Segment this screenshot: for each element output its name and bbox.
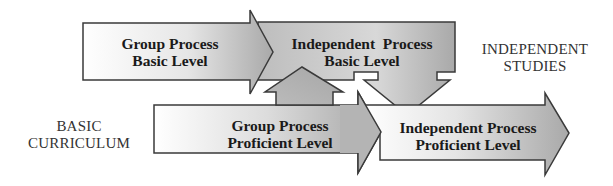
- side-label-basic-curriculum-line2: CURRICULUM: [4, 135, 154, 152]
- node-ip-proficient-line1: Independent Process: [388, 119, 548, 136]
- diagram-canvas: [0, 0, 613, 186]
- node-ip-basic: Independent Process Basic Level: [282, 35, 442, 69]
- node-ip-proficient: Independent Process Proficient Level: [388, 119, 548, 153]
- node-ip-proficient-line2: Proficient Level: [388, 136, 548, 153]
- node-ip-basic-line1: Independent Process: [282, 35, 442, 52]
- node-gp-basic-line2: Basic Level: [100, 52, 240, 69]
- side-label-independent-studies-line2: STUDIES: [465, 58, 605, 75]
- node-gp-basic: Group Process Basic Level: [100, 35, 240, 69]
- node-ip-basic-line2: Basic Level: [282, 52, 442, 69]
- side-label-independent-studies-line1: INDEPENDENT: [465, 41, 605, 58]
- node-gp-proficient-line2: Proficient Level: [210, 134, 350, 151]
- node-gp-proficient-line1: Group Process: [210, 117, 350, 134]
- node-gp-proficient: Group Process Proficient Level: [210, 117, 350, 151]
- side-label-independent-studies: INDEPENDENT STUDIES: [465, 41, 605, 75]
- side-label-basic-curriculum: BASIC CURRICULUM: [4, 118, 154, 152]
- node-gp-basic-line1: Group Process: [100, 35, 240, 52]
- side-label-basic-curriculum-line1: BASIC: [4, 118, 154, 135]
